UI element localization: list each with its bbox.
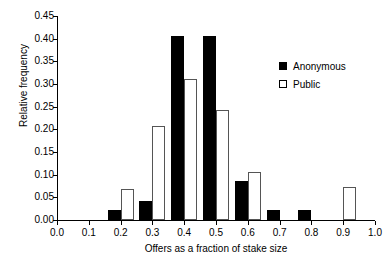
y-axis-tick-label: 0.00 <box>35 215 54 225</box>
legend-item-anonymous: Anonymous <box>279 58 346 74</box>
bar-anonymous <box>108 210 121 220</box>
bar-public <box>184 79 197 220</box>
y-axis-tick-label: 0.10 <box>35 170 54 180</box>
y-axis-tick-mark <box>53 197 57 198</box>
x-axis-tick-mark <box>184 221 185 225</box>
y-axis-tick-mark <box>53 39 57 40</box>
legend-swatch-open-square-icon <box>279 80 287 88</box>
y-axis-tick-mark <box>53 175 57 176</box>
x-axis-tick-mark <box>280 221 281 225</box>
x-axis-title: Offers as a fraction of stake size <box>57 243 375 254</box>
x-axis-tick-mark <box>216 221 217 225</box>
y-axis-tick-label: 0.40 <box>35 34 54 44</box>
x-axis-tick-mark <box>152 221 153 225</box>
bar-chart-figure: Relative frequency 0.000.050.100.150.200… <box>0 0 383 262</box>
y-axis-tick-mark <box>53 129 57 130</box>
legend-label-public: Public <box>293 79 320 90</box>
bar-anonymous <box>298 210 311 220</box>
y-axis-tick-label: 0.45 <box>35 11 54 21</box>
y-axis-tick-mark <box>53 152 57 153</box>
bar-anonymous <box>139 201 152 220</box>
plot-area <box>57 16 375 220</box>
legend-item-public: Public <box>279 76 346 92</box>
x-axis-tick-mark <box>375 221 376 225</box>
bar-anonymous <box>203 36 216 220</box>
y-axis-tick-mark <box>53 84 57 85</box>
y-axis-tick-label: 0.25 <box>35 102 54 112</box>
bar-anonymous <box>235 181 248 220</box>
y-axis-tick-mark <box>53 107 57 108</box>
y-axis-tick-labels: 0.000.050.100.150.200.250.300.350.400.45 <box>26 0 54 262</box>
legend-swatch-filled-square-icon <box>279 62 287 70</box>
legend-label-anonymous: Anonymous <box>293 61 346 72</box>
bar-public <box>248 172 261 220</box>
y-axis-tick-mark <box>53 16 57 17</box>
y-axis-tick-mark <box>53 61 57 62</box>
y-axis-tick-label: 0.05 <box>35 192 54 202</box>
x-axis-tick-mark <box>57 221 58 225</box>
y-axis-tick-label: 0.35 <box>35 56 54 66</box>
x-axis-tick-label: 1.0 <box>355 227 383 238</box>
bar-anonymous <box>171 36 184 220</box>
bar-public <box>343 187 356 220</box>
bar-public <box>216 110 229 220</box>
x-axis-tick-mark <box>121 221 122 225</box>
x-axis-tick-mark <box>89 221 90 225</box>
bar-public <box>121 189 134 220</box>
y-axis-tick-label: 0.30 <box>35 79 54 89</box>
bar-anonymous <box>267 210 280 220</box>
chart-legend: Anonymous Public <box>279 58 346 94</box>
x-axis-tick-mark <box>248 221 249 225</box>
y-axis-tick-label: 0.15 <box>35 147 54 157</box>
x-axis-tick-mark <box>311 221 312 225</box>
y-axis-tick-label: 0.20 <box>35 124 54 134</box>
bar-public <box>152 126 165 220</box>
x-axis-tick-mark <box>343 221 344 225</box>
